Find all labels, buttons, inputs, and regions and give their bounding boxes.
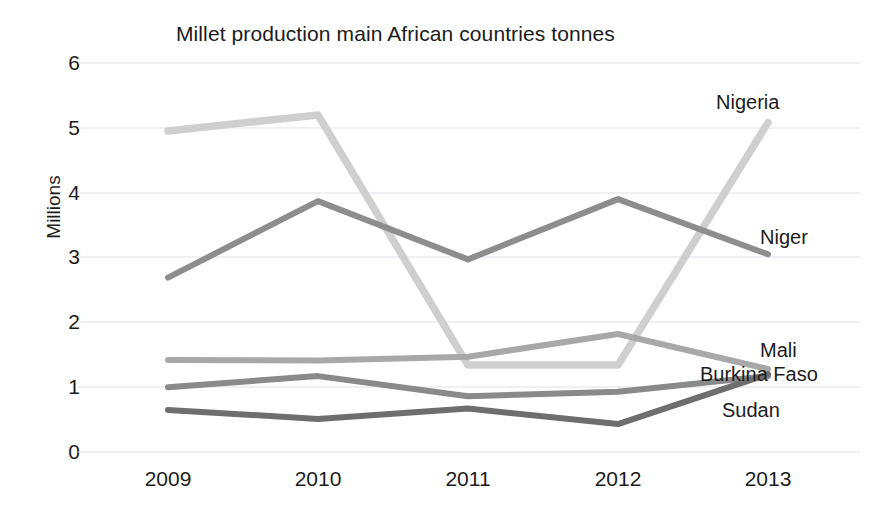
series-label-niger: Niger bbox=[760, 227, 808, 247]
plot-area bbox=[0, 0, 874, 511]
series-label-nigeria: Nigeria bbox=[716, 92, 779, 112]
series-label-burkina-faso: Burkina Faso bbox=[700, 364, 818, 384]
chart-container: Millet production main African countries… bbox=[0, 0, 874, 511]
series-label-sudan: Sudan bbox=[722, 400, 780, 420]
series-line-burkina-faso bbox=[168, 376, 768, 396]
series-lines bbox=[168, 115, 768, 424]
series-line-nigeria bbox=[168, 115, 768, 365]
series-label-mali: Mali bbox=[760, 340, 797, 360]
